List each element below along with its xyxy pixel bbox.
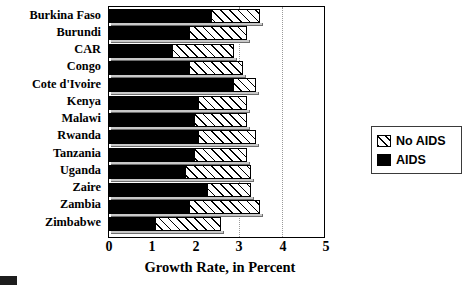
- bar-segment-aids: [108, 148, 195, 162]
- category-label: Cote d'Ivoire: [0, 78, 101, 91]
- bar-segment-aids: [108, 61, 190, 75]
- legend-label: No AIDS: [396, 134, 446, 148]
- x-tick-label: 4: [268, 239, 298, 255]
- x-tick-label: 2: [181, 239, 211, 255]
- category-label: Burundi: [0, 26, 101, 39]
- category-label: Zambia: [0, 198, 101, 211]
- category-label: Tanzania: [0, 147, 101, 160]
- category-label: Zimbabwe: [0, 216, 101, 229]
- legend-label: AIDS: [396, 153, 426, 167]
- bars-layer: [108, 6, 325, 238]
- category-label: Burkina Faso: [0, 9, 101, 22]
- bar-segment-aids: [108, 26, 190, 40]
- category-label: Zaire: [0, 181, 101, 194]
- x-tick-label: 0: [94, 239, 124, 255]
- legend-item-no-aids: No AIDS: [377, 131, 461, 150]
- bar-shadow: [111, 231, 224, 234]
- bar-segment-aids: [108, 217, 156, 231]
- bar-segment-aids: [108, 113, 195, 127]
- category-label: Uganda: [0, 164, 101, 177]
- category-label: CAR: [0, 43, 101, 56]
- category-label: Kenya: [0, 95, 101, 108]
- category-label: Congo: [0, 60, 101, 73]
- growth-rate-chart: Burkina Faso Burundi CAR Congo Cote d'Iv…: [0, 0, 472, 285]
- bar-segment-aids: [108, 183, 208, 197]
- category-axis-labels: Burkina Faso Burundi CAR Congo Cote d'Iv…: [0, 8, 104, 236]
- category-label: Rwanda: [0, 129, 101, 142]
- bar-segment-aids: [108, 96, 199, 110]
- scan-corner-mark: [0, 276, 17, 285]
- x-tick-label: 3: [224, 239, 254, 255]
- bar-segment-aids: [108, 78, 234, 92]
- hatch-swatch-icon: [377, 135, 391, 147]
- x-axis-ticks: 0 1 2 3 4 5: [0, 239, 472, 257]
- legend-item-aids: AIDS: [377, 150, 461, 169]
- bar-segment-aids: [108, 130, 199, 144]
- bar-segment-aids: [108, 9, 212, 23]
- chart-legend: No AIDS AIDS: [371, 126, 462, 174]
- bar-segment-aids: [108, 165, 186, 179]
- x-tick-label: 5: [311, 239, 341, 255]
- x-axis-title: Growth Rate, in Percent: [60, 259, 380, 276]
- x-tick-label: 1: [137, 239, 167, 255]
- category-label: Malawi: [0, 112, 101, 125]
- bar-segment-aids: [108, 200, 190, 214]
- solid-swatch-icon: [377, 154, 391, 166]
- bar-segment-aids: [108, 44, 173, 58]
